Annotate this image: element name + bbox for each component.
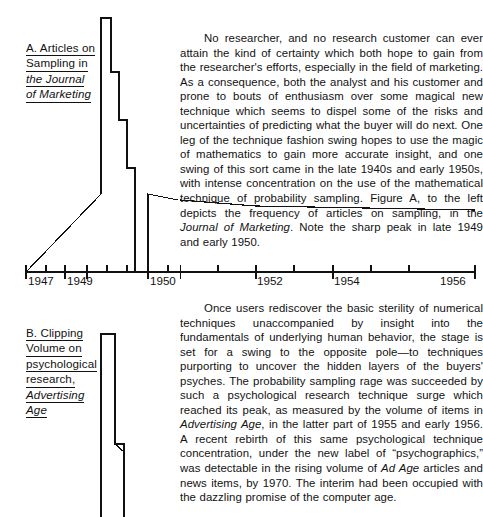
axis-label-1952: 1952 bbox=[257, 274, 283, 287]
figure-b-shoulder bbox=[115, 444, 124, 452]
figure-a-section: 1947 1949 1950 1952 1954 1956 A. Article… bbox=[0, 0, 483, 292]
axis-label-1950: 1950 bbox=[150, 274, 176, 287]
figure-b-bodytext: Once users rediscover the basic sterilit… bbox=[180, 301, 483, 505]
axis-label-1947: 1947 bbox=[28, 274, 54, 287]
paragraph-b: Once users rediscover the basic sterilit… bbox=[180, 301, 483, 505]
caption-line: Advertising bbox=[26, 388, 84, 403]
figure-b-section: B. Clipping Volume on psychological rese… bbox=[0, 292, 483, 517]
caption-line: psychological bbox=[26, 357, 97, 372]
figure-page: 1947 1949 1950 1952 1954 1956 A. Article… bbox=[0, 0, 483, 517]
axis-label-1956: 1956 bbox=[440, 274, 466, 287]
caption-line: Age bbox=[26, 403, 47, 418]
caption-line: the Journal bbox=[26, 72, 84, 87]
figure-a-bodytext: No researcher, and no research customer … bbox=[180, 31, 483, 249]
paragraph-a: No researcher, and no research customer … bbox=[180, 31, 483, 249]
figure-a-axis-labels: 1947 1949 1950 1952 1954 1956 bbox=[0, 274, 483, 292]
caption-line: A. Articles on bbox=[26, 41, 95, 56]
figure-b-caption: B. Clipping Volume on psychological rese… bbox=[26, 326, 130, 418]
caption-line: B. Clipping bbox=[26, 326, 83, 341]
caption-line: research, bbox=[26, 372, 75, 387]
caption-line: of Marketing bbox=[26, 87, 91, 102]
figure-a-caption: A. Articles on Sampling in the Journal o… bbox=[26, 41, 130, 103]
caption-line: Volume on bbox=[26, 341, 82, 356]
axis-label-1949: 1949 bbox=[67, 274, 93, 287]
caption-line: Sampling in bbox=[26, 56, 88, 71]
axis-label-1954: 1954 bbox=[334, 274, 360, 287]
